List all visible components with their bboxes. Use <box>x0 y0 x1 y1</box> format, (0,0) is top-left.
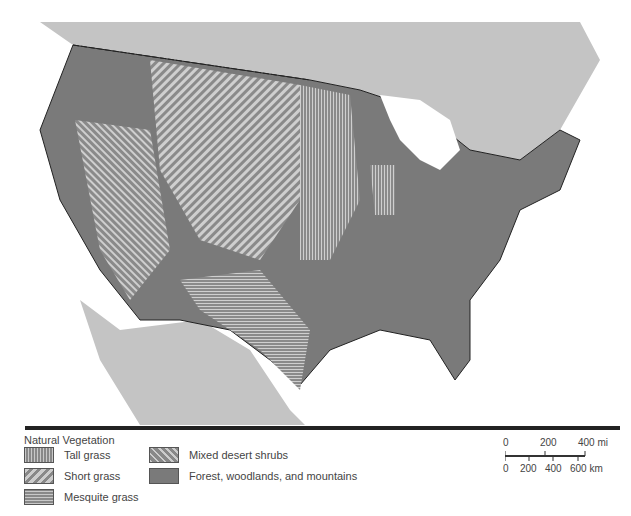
scale-bar: 0 200 400 mi 0 200 400 600 km <box>500 437 625 477</box>
legend-item-short-grass: Short grass <box>24 468 120 484</box>
legend-item-tall-grass: Tall grass <box>24 447 110 463</box>
mesquite-grass-swatch-icon <box>24 489 54 505</box>
forest-swatch-icon <box>149 468 179 484</box>
short-grass-swatch-icon <box>24 468 54 484</box>
legend-item-mesquite-grass: Mesquite grass <box>24 489 139 505</box>
tall-grass-swatch-icon <box>24 447 54 463</box>
legend-title: Natural Vegetation <box>24 434 115 446</box>
desert-shrubs-swatch-icon <box>149 447 179 463</box>
legend-item-desert-shrubs: Mixed desert shrubs <box>149 447 288 463</box>
vegetation-map <box>0 0 631 430</box>
legend-item-forest: Forest, woodlands, and mountains <box>149 468 357 484</box>
legend-divider <box>25 426 620 430</box>
